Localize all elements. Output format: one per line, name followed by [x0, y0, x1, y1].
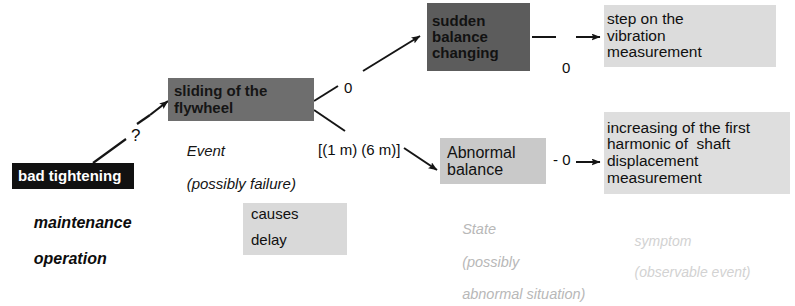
node-label-line: sudden — [432, 13, 530, 29]
node-label-line: harmonic of shaft — [607, 136, 790, 153]
node-sudden-balance-changing[interactable]: sudden balance changing — [427, 3, 530, 71]
node-symptom-vibration-measurement[interactable]: step on the vibration measurement — [604, 5, 776, 67]
caption-state-possibly-abnormal-situation: State (possibly abnormal situation) — [446, 205, 585, 306]
caption-line: State — [462, 221, 496, 237]
node-bad-tightening-label: bad tightening — [18, 168, 134, 184]
caption-line: (possibly — [462, 254, 519, 270]
caption-event-possibly-failure: Event (possibly failure) — [170, 126, 296, 210]
node-bad-tightening[interactable]: bad tightening — [12, 163, 134, 189]
node-symptom-harmonic-displacement[interactable]: increasing of the first harmonic of shaf… — [604, 112, 790, 194]
caption-line: maintenance — [34, 214, 132, 231]
node-label-line: flywheel — [174, 100, 314, 116]
edge-label-delay-interval: [(1 m) (6 m)] — [318, 141, 401, 158]
node-label-line: measurement — [607, 170, 790, 187]
edge-sliding-to-sudden — [314, 36, 420, 101]
caption-line: Event — [187, 142, 225, 159]
edge-label-zero-to-sudden: 0 — [344, 79, 352, 96]
legend-causes-delay: causes delay — [243, 203, 347, 255]
caption-line: abnormal situation) — [462, 286, 585, 302]
edge-label-zero-to-harmonic: - 0 — [553, 151, 571, 168]
caption-line: operation — [34, 250, 107, 267]
node-label-line: changing — [432, 45, 530, 61]
caption-line: (observable event) — [635, 264, 751, 280]
edge-label-zero-to-vibration: 0 — [562, 59, 570, 76]
caption-maintenance-operation: maintenance operation — [16, 196, 132, 286]
node-label-line: sliding of the — [174, 83, 314, 99]
caption-symptom-observable-event: symptom (observable event) — [619, 218, 751, 296]
legend-causes-label: causes — [251, 205, 299, 222]
node-label-line: displacement — [607, 153, 790, 170]
node-label-line: vibration — [607, 28, 776, 45]
node-label-line: balance — [447, 161, 546, 178]
edge-sliding-to-abnormal — [314, 110, 437, 170]
legend-delay-label: delay — [251, 231, 287, 248]
edge-label-question-mark: ? — [131, 126, 140, 146]
caption-line: symptom — [635, 233, 692, 249]
node-abnormal-balance[interactable]: Abnormal balance — [440, 138, 546, 184]
node-sliding-of-the-flywheel[interactable]: sliding of the flywheel — [168, 78, 314, 121]
node-label-line: step on the — [607, 11, 776, 28]
caption-line: (possibly failure) — [187, 175, 296, 192]
node-label-line: measurement — [607, 44, 776, 61]
node-label-line: Abnormal — [447, 144, 546, 161]
node-label-line: increasing of the first — [607, 120, 790, 137]
node-label-line: balance — [432, 29, 530, 45]
